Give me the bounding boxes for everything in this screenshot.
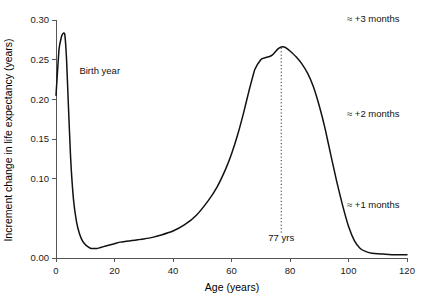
x-tick-label: 60 [226,265,237,276]
x-tick-label: 120 [399,265,415,276]
life-expectancy-increment-chart: 0.000.100.150.200.250.30 020406080100120… [0,0,422,297]
x-tick-label: 100 [341,265,357,276]
in-plot-annotations: Birth year77 yrs [79,65,294,243]
x-tick-label: 80 [285,265,296,276]
chart-container: 0.000.100.150.200.250.30 020406080100120… [0,0,422,297]
x-tick-label: 20 [109,265,120,276]
margin-note-note-3-months: ≈ +3 months [347,13,400,24]
y-axis-ticks: 0.000.100.150.200.250.30 [31,14,57,263]
x-axis-ticks: 020406080100120 [53,258,415,276]
x-axis-title: Age (years) [205,281,259,293]
margin-note-note-1-months: ≈ +1 months [347,199,400,210]
annotation-birth-year: Birth year [79,65,120,76]
x-tick-label: 40 [168,265,179,276]
y-tick-label: 0.20 [31,94,50,105]
y-axis-group: 0.000.100.150.200.250.30 [31,14,57,263]
x-axis-group: 020406080100120 [53,258,415,276]
annotation-peak-age: 77 yrs [268,232,294,243]
y-tick-label: 0.00 [31,252,50,263]
y-tick-label: 0.30 [31,14,50,25]
y-axis-title: Increment change in life expectancy (yea… [2,38,14,241]
y-tick-label: 0.25 [31,54,50,65]
right-margin-notes: ≈ +3 months≈ +2 months≈ +1 months [347,13,400,210]
x-tick-label: 0 [53,265,58,276]
margin-note-note-2-months: ≈ +2 months [347,108,400,119]
y-tick-label: 0.15 [31,133,50,144]
y-tick-label: 0.10 [31,173,50,184]
